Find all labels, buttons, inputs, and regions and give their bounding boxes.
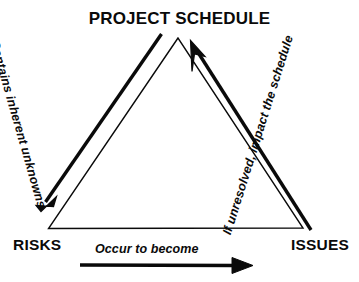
edge-label-occur-to-become: Occur to become — [95, 242, 199, 256]
arrow-risks-to-issues — [80, 258, 253, 274]
diagram-canvas-root: PROJECT SCHEDULE RISKS ISSUES Contains i… — [0, 0, 359, 282]
node-label-issues: ISSUES — [291, 236, 349, 254]
arrow-schedule-to-risks — [36, 34, 162, 212]
node-label-risks: RISKS — [13, 236, 61, 254]
node-label-project-schedule: PROJECT SCHEDULE — [0, 9, 359, 29]
